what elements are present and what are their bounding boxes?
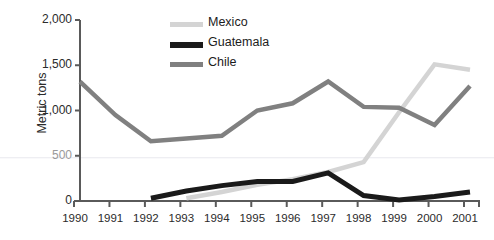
series-line-chile (80, 82, 470, 142)
x-tick-label: 1996 (271, 212, 305, 224)
x-tick-label: 1990 (58, 212, 92, 224)
legend-label-chile: Chile (208, 55, 237, 69)
y-tick-label: 500 (18, 148, 72, 162)
y-tick-label: 1,000 (18, 103, 72, 117)
legend-swatch-chile (170, 62, 203, 67)
y-tick-label: 0 (18, 193, 72, 207)
legend-label-guatemala: Guatemala (208, 35, 269, 49)
x-tick-label: 1999 (377, 212, 411, 224)
x-tick-label: 1993 (164, 212, 198, 224)
legend-swatch-mexico (170, 22, 203, 27)
x-tick-label: 1997 (306, 212, 340, 224)
x-tick-label: 1995 (235, 212, 269, 224)
legend-label-mexico: Mexico (208, 15, 248, 29)
x-tick-label: 1994 (200, 212, 234, 224)
x-tick-label: 2001 (448, 212, 482, 224)
y-tick-label: 2,000 (18, 12, 72, 26)
x-tick-label: 1998 (342, 212, 376, 224)
x-tick-label: 1992 (129, 212, 163, 224)
line-chart: Metric tons 2,0001,5001,0005000 19901991… (0, 0, 494, 240)
legend-swatch-guatemala (170, 42, 203, 48)
x-tick-label: 1991 (93, 212, 127, 224)
y-tick-label: 1,500 (18, 57, 72, 71)
x-tick-label: 2000 (413, 212, 447, 224)
